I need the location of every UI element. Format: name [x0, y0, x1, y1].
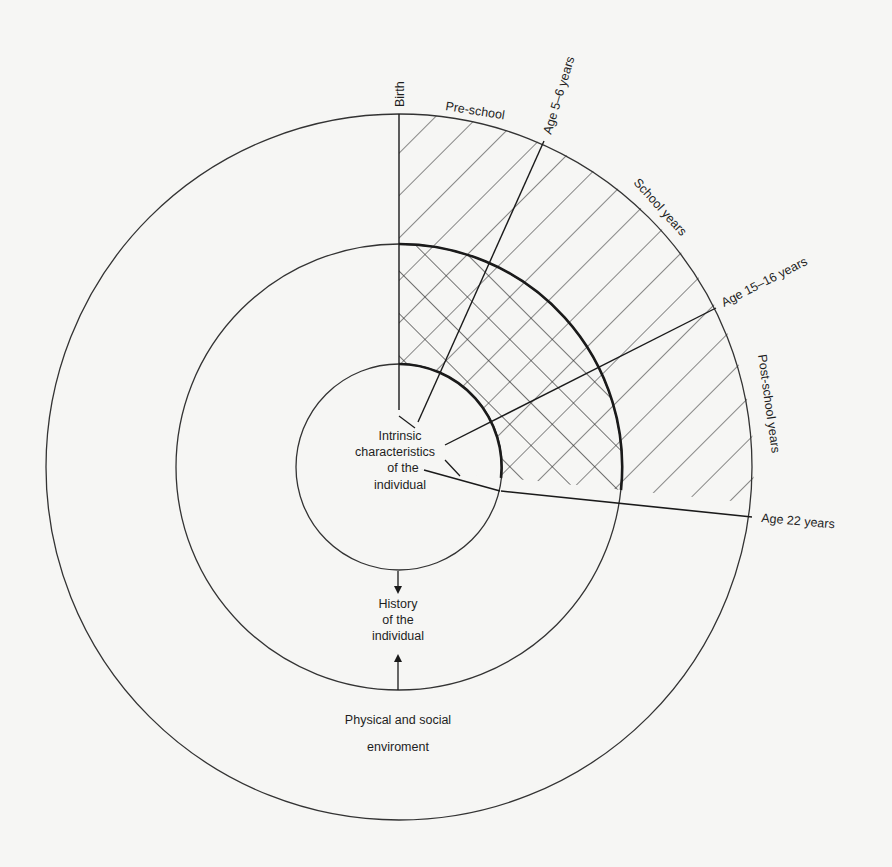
inner-label-line3: of the — [387, 461, 418, 475]
middle-label-line3: individual — [372, 629, 424, 643]
development-diagram: Birth Pre-school Age 5–6 years School ye… — [0, 0, 892, 867]
outer-label-line2: enviroment — [367, 740, 429, 754]
inner-label-line2: characteristics — [355, 445, 435, 459]
arrow-down-icon — [394, 586, 402, 594]
label-post-school-years: Post-school years — [755, 353, 783, 453]
middle-label-line2: of the — [382, 613, 413, 627]
label-age-22: Age 22 years — [761, 511, 836, 531]
label-birth: Birth — [393, 81, 407, 107]
inner-label-line4: individual — [374, 478, 426, 492]
label-age-15-16: Age 15–16 years — [719, 254, 810, 309]
outer-label-line1: Physical and social — [345, 713, 451, 727]
middle-label-line1: History — [379, 597, 419, 611]
label-age-5-6: Age 5–6 years — [540, 55, 577, 136]
inner-label-line1: Intrinsic — [378, 429, 421, 443]
arrow-up-icon — [394, 654, 402, 662]
